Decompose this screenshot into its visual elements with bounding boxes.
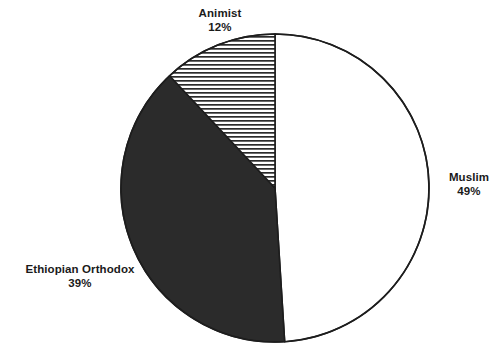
pie-label-animist-value: 12%	[146, 20, 294, 34]
pie-label-animist-name: Animist	[146, 6, 294, 20]
pie-label-muslim-name: Muslim	[440, 170, 498, 184]
pie-chart-graphic	[0, 0, 501, 363]
pie-chart: Animist 12% Muslim 49% Ethiopian Orthodo…	[0, 0, 501, 363]
pie-slice-muslim	[275, 34, 429, 342]
pie-label-ethiopian-orthodox-value: 39%	[4, 276, 156, 290]
pie-label-muslim: Muslim 49%	[440, 170, 498, 198]
pie-label-animist: Animist 12%	[146, 6, 294, 34]
pie-label-ethiopian-orthodox-name: Ethiopian Orthodox	[4, 262, 156, 276]
pie-label-ethiopian-orthodox: Ethiopian Orthodox 39%	[4, 262, 156, 290]
pie-label-muslim-value: 49%	[440, 184, 498, 198]
